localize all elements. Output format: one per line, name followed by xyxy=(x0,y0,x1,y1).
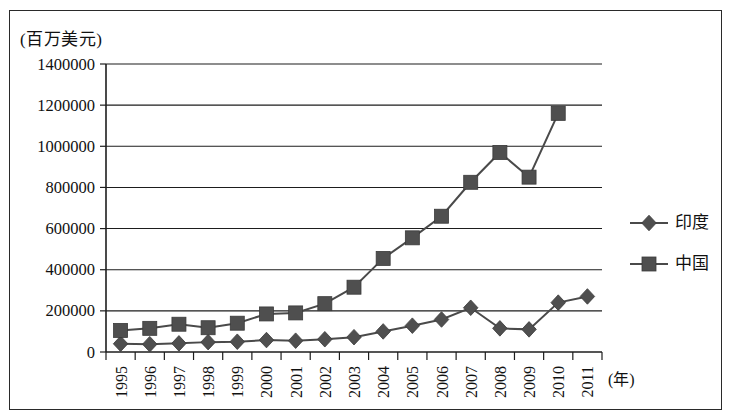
data-point-marker xyxy=(201,334,216,350)
data-point-marker xyxy=(230,334,245,350)
data-point-marker xyxy=(642,215,657,231)
data-point-marker xyxy=(289,306,303,320)
data-point-marker xyxy=(201,321,215,335)
x-axis-tick-label: 2002 xyxy=(317,366,334,398)
legend-label-china: 中国 xyxy=(675,254,709,273)
data-point-marker xyxy=(463,300,478,316)
data-point-marker xyxy=(113,336,128,352)
gridlines-group xyxy=(106,64,602,311)
y-axis-tick-label: 800000 xyxy=(46,178,96,197)
data-point-marker xyxy=(114,323,128,337)
data-point-marker xyxy=(318,297,332,311)
data-point-marker xyxy=(288,333,303,349)
data-point-marker xyxy=(376,251,390,265)
data-point-marker xyxy=(464,175,478,189)
y-axis-tick-label: 1200000 xyxy=(37,96,95,115)
x-axis-tick-label: 2001 xyxy=(288,366,305,398)
x-axis-tick-label: 2011 xyxy=(579,366,596,397)
x-axis-tick-label: 1997 xyxy=(171,366,188,398)
x-axis-tick-label: 2000 xyxy=(258,366,275,398)
x-axis-unit-label: (年) xyxy=(608,366,635,390)
y-axis-tick-label: 400000 xyxy=(46,260,96,279)
data-point-marker xyxy=(172,317,186,331)
data-series-group xyxy=(113,106,594,352)
x-axis-tick-labels-group: 1995199619971998199920002001200220032004… xyxy=(113,366,597,398)
y-axis-tick-label: 0 xyxy=(87,343,95,362)
legend-label-india: 印度 xyxy=(675,213,709,232)
x-axis-tick-label: 1996 xyxy=(142,366,159,398)
data-point-marker xyxy=(143,321,157,335)
x-axis-tick-label: 1995 xyxy=(113,366,130,398)
data-point-marker xyxy=(143,336,158,352)
data-point-marker xyxy=(172,336,187,352)
chart-frame: (百万美元) 020000040000060000080000010000001… xyxy=(9,10,722,410)
x-axis-tick-label: 2009 xyxy=(521,366,538,398)
line-chart-plot: 0200000400000600000800000100000012000001… xyxy=(10,11,723,411)
data-point-marker xyxy=(405,231,419,245)
data-point-marker xyxy=(259,332,274,348)
x-axis-tick-label: 2008 xyxy=(492,366,509,398)
data-point-marker xyxy=(318,331,333,347)
data-point-marker xyxy=(434,312,449,328)
y-axis-tick-label: 1000000 xyxy=(37,137,95,156)
data-point-marker xyxy=(259,307,273,321)
x-axis-tick-label: 2007 xyxy=(463,366,480,398)
x-axis-tick-label: 2006 xyxy=(434,366,451,398)
axis-lines-group xyxy=(106,64,602,352)
data-point-marker xyxy=(376,324,391,340)
data-point-marker xyxy=(405,318,420,334)
x-axis-tick-label: 1998 xyxy=(200,366,217,398)
y-axis-tick-label: 1400000 xyxy=(37,55,95,74)
x-axis-ticks-group xyxy=(106,352,602,360)
data-point-marker xyxy=(347,280,361,294)
x-axis-tick-label: 1999 xyxy=(229,366,246,398)
data-point-marker xyxy=(642,257,656,271)
data-point-marker xyxy=(435,209,449,223)
data-point-marker xyxy=(230,316,244,330)
data-point-marker xyxy=(522,170,536,184)
y-axis-tick-label: 600000 xyxy=(46,219,96,238)
x-axis-tick-label: 2010 xyxy=(550,366,567,398)
data-point-marker xyxy=(493,321,508,337)
data-point-marker xyxy=(347,329,362,345)
x-axis-tick-label: 2004 xyxy=(375,366,392,398)
x-axis-tick-label: 2005 xyxy=(404,366,421,398)
data-point-marker xyxy=(493,145,507,159)
x-axis-tick-label: 2003 xyxy=(346,366,363,398)
y-axis-tick-label: 200000 xyxy=(46,301,96,320)
chart-legend: 印度中国 xyxy=(630,213,709,273)
data-point-marker xyxy=(580,289,595,305)
data-point-marker xyxy=(551,106,565,120)
y-axis-ticks-group: 0200000400000600000800000100000012000001… xyxy=(37,55,106,362)
